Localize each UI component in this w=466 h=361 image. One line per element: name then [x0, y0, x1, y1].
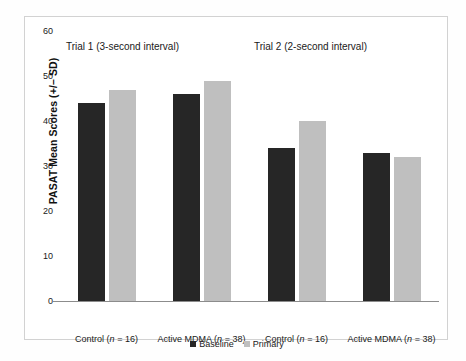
legend-label: Baseline — [199, 339, 234, 349]
y-axis-title: PASAT Mean Scores (+/– SD) — [47, 41, 59, 221]
plot-area: 0102030405060 Control (n = 16)Active MDM… — [59, 31, 439, 301]
bar-baseline-1 — [173, 94, 200, 301]
bar-primary-2 — [299, 121, 326, 301]
bar-primary-0 — [109, 90, 136, 302]
y-tick-label: 60 — [43, 26, 53, 36]
bar-baseline-2 — [268, 148, 295, 301]
bar-primary-1 — [204, 81, 231, 302]
y-tick-label: 20 — [43, 206, 53, 216]
y-tick-label: 50 — [43, 71, 53, 81]
y-tick-label: 40 — [43, 116, 53, 126]
legend-item-baseline[interactable]: Baseline — [190, 339, 234, 349]
chart-legend: BaselinePrimary — [25, 339, 449, 349]
bar-baseline-3 — [363, 153, 390, 302]
legend-item-primary[interactable]: Primary — [244, 339, 284, 349]
bar-baseline-0 — [78, 103, 105, 301]
x-axis-line — [53, 301, 439, 302]
legend-label: Primary — [253, 339, 284, 349]
y-tick-label: 30 — [43, 161, 53, 171]
legend-swatch-icon — [244, 341, 250, 347]
y-tick-label: 10 — [43, 251, 53, 261]
chart-frame: PASAT Mean Scores (+/– SD) Trial 1 (3-se… — [24, 16, 448, 340]
figure-canvas: PASAT Mean Scores (+/– SD) Trial 1 (3-se… — [0, 0, 466, 361]
bar-primary-3 — [394, 157, 421, 301]
legend-swatch-icon — [190, 341, 196, 347]
